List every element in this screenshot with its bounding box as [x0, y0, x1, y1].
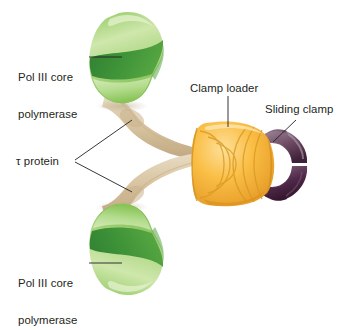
label-pol3-core-bottom-line1: Pol III core	[18, 277, 77, 289]
label-pol3-core-top-line2: polymerase	[18, 108, 77, 120]
label-pol3-core-top-line1: Pol III core	[18, 71, 77, 83]
leader-tau-upper	[75, 120, 132, 160]
label-pol3-core-bottom: Pol III core polymerase	[18, 252, 77, 330]
label-pol3-core-bottom-line2: polymerase	[18, 314, 77, 326]
clamp-loader	[192, 121, 274, 206]
label-tau-protein: τ protein	[16, 155, 59, 168]
label-pol3-core-top: Pol III core polymerase	[18, 46, 77, 145]
label-sliding-clamp: Sliding clamp	[265, 103, 333, 116]
pol3-core-polymerase-bottom	[89, 204, 163, 295]
label-clamp-loader: Clamp loader	[190, 82, 258, 95]
leader-tau-lower	[75, 162, 132, 192]
pol3-core-polymerase-top	[89, 12, 163, 103]
